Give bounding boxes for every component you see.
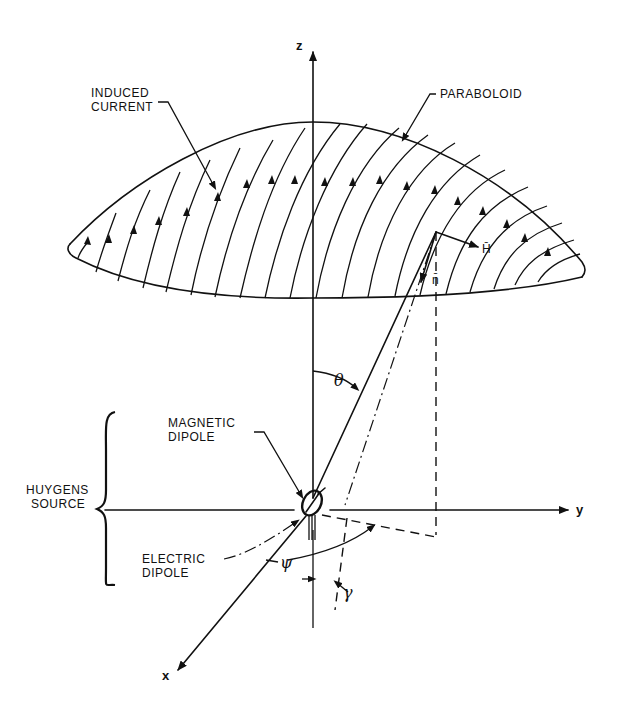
z-axis-label: z <box>296 38 303 53</box>
theta-angle: θ <box>313 371 356 390</box>
electric-dipole-label: ELECTRIC DIPOLE <box>142 522 296 580</box>
y-axis-label: y <box>576 502 584 517</box>
magnetic-dipole-label: MAGNETIC DIPOLE <box>168 416 301 495</box>
z-axis: z <box>296 38 313 498</box>
svg-text:ELECTRIC: ELECTRIC <box>142 552 205 566</box>
x-axis-label: x <box>162 668 170 683</box>
svg-text:INDUCED: INDUCED <box>91 86 149 100</box>
svg-text:MAGNETIC: MAGNETIC <box>168 416 235 430</box>
svg-text:DIPOLE: DIPOLE <box>142 566 189 580</box>
gamma-label: γ <box>343 583 353 602</box>
y-axis: y <box>105 502 584 517</box>
svg-text:DIPOLE: DIPOLE <box>168 430 215 444</box>
paraboloid-surface <box>68 122 585 298</box>
induced-current-label: INDUCED CURRENT <box>91 86 214 186</box>
svg-text:PARABOLOID: PARABOLOID <box>440 87 522 101</box>
svg-text:SOURCE: SOURCE <box>31 497 85 511</box>
paraboloid-label: PARABOLOID <box>404 87 522 138</box>
svg-text:HUYGENS: HUYGENS <box>26 483 89 497</box>
x-axis: x <box>162 516 313 683</box>
svg-text:CURRENT: CURRENT <box>91 100 153 114</box>
huygens-source-brace: HUYGENS SOURCE <box>26 412 115 585</box>
h-vector-label: H̄ <box>482 242 491 256</box>
huygens-source <box>298 487 325 540</box>
theta-label: θ <box>334 371 344 390</box>
gamma-angle: γ <box>302 579 353 602</box>
psi-label: ψ <box>280 553 293 572</box>
paraboloid-diagram: z <box>0 0 620 704</box>
psi-angle: ψ <box>266 527 372 572</box>
xy-projection <box>322 515 436 610</box>
